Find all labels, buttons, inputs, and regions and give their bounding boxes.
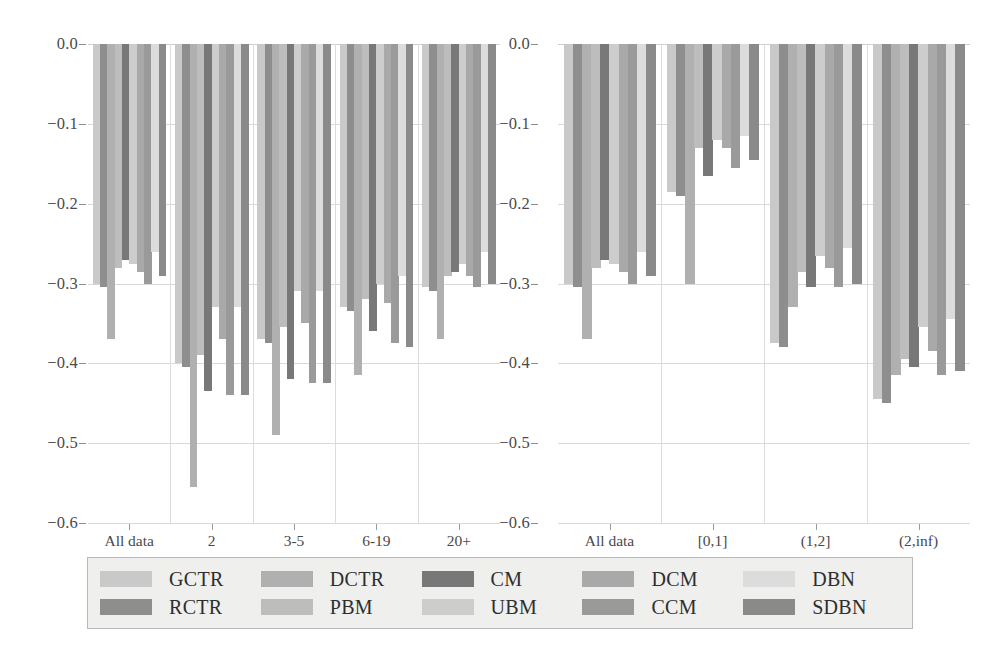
bar-cm-1 bbox=[703, 44, 713, 176]
bar-group bbox=[873, 44, 965, 523]
y-tick-label: −0.2 bbox=[47, 194, 78, 214]
bar-rctr-1 bbox=[676, 44, 686, 196]
y-tick-mark bbox=[79, 204, 86, 205]
bar-group bbox=[564, 44, 656, 523]
y-axis-left: 0.0−0.1−0.2−0.3−0.4−0.5−0.6 bbox=[0, 44, 78, 523]
bar-cm-3 bbox=[909, 44, 919, 367]
bar-rctr-0 bbox=[573, 44, 583, 287]
y-tick-mark bbox=[531, 124, 538, 125]
x-tick-label: (2,inf) bbox=[899, 532, 938, 550]
bar-dctr-2 bbox=[788, 44, 798, 307]
legend-label: RCTR bbox=[169, 596, 222, 619]
bar-ccm-3 bbox=[937, 44, 947, 375]
bar-group bbox=[257, 44, 330, 523]
y-tick-label: −0.4 bbox=[499, 353, 530, 373]
bar-group bbox=[340, 44, 413, 523]
gridline-x bbox=[867, 44, 868, 523]
x-tick-label: All data bbox=[585, 532, 635, 550]
legend-label: UBM bbox=[491, 596, 537, 619]
legend-swatch-icon bbox=[582, 599, 634, 615]
figure-root: 0.0−0.1−0.2−0.3−0.4−0.5−0.6 All data23-5… bbox=[0, 0, 999, 668]
bar-cm-0 bbox=[600, 44, 610, 260]
y-tick-label: −0.2 bbox=[499, 194, 530, 214]
legend-swatch-icon bbox=[261, 599, 313, 615]
bar-dbn-0 bbox=[637, 44, 647, 252]
x-tick-mark bbox=[610, 524, 611, 530]
legend-item-ubm[interactable]: UBM bbox=[422, 593, 583, 621]
legend-label: GCTR bbox=[169, 568, 224, 591]
bar-ccm-2 bbox=[834, 44, 844, 287]
y-tick-label: 0.0 bbox=[57, 34, 78, 54]
bar-dctr-3 bbox=[891, 44, 901, 375]
legend-item-gctr[interactable]: GCTR bbox=[100, 565, 261, 593]
bar-group bbox=[93, 44, 166, 523]
bars-container-right bbox=[558, 44, 970, 523]
x-axis-right: All data[0,1](1,2](2,inf) bbox=[558, 524, 970, 550]
bar-group bbox=[667, 44, 759, 523]
legend-label: DCTR bbox=[330, 568, 385, 591]
bar-dbn-1 bbox=[740, 44, 750, 136]
legend-item-pbm[interactable]: PBM bbox=[261, 593, 422, 621]
bar-gctr-3 bbox=[873, 44, 883, 399]
legend-swatch-icon bbox=[743, 571, 795, 587]
bar-pbm-3 bbox=[900, 44, 910, 359]
legend-item-ccm[interactable]: CCM bbox=[582, 593, 743, 621]
x-tick-mark bbox=[713, 524, 714, 530]
bar-dcm-2 bbox=[825, 44, 835, 268]
y-tick-label: −0.5 bbox=[499, 433, 530, 453]
legend-swatch-icon bbox=[582, 571, 634, 587]
legend-label: DBN bbox=[812, 568, 855, 591]
legend-item-sdbn[interactable]: SDBN bbox=[743, 593, 904, 621]
bar-ccm-0 bbox=[628, 44, 638, 284]
y-tick-mark bbox=[531, 44, 538, 45]
x-axis-left: All data23-56-1920+ bbox=[88, 524, 500, 550]
legend-swatch-icon bbox=[422, 571, 474, 587]
legend: GCTRRCTRDCTRPBMCMUBMDCMCCMDBNSDBN bbox=[87, 557, 913, 629]
legend-label: CM bbox=[491, 568, 523, 591]
y-tick-mark bbox=[531, 523, 538, 524]
bar-dcm-0 bbox=[619, 44, 629, 272]
x-tick-label: 3-5 bbox=[284, 532, 305, 550]
y-tick-mark bbox=[531, 284, 538, 285]
legend-item-dctr[interactable]: DCTR bbox=[261, 565, 422, 593]
bar-sdbn-2 bbox=[323, 44, 331, 383]
bar-dbn-3 bbox=[946, 44, 956, 319]
x-tick-mark bbox=[129, 524, 130, 530]
legend-item-dcm[interactable]: DCM bbox=[582, 565, 743, 593]
bar-pbm-1 bbox=[694, 44, 704, 148]
y-tick-label: 0.0 bbox=[509, 34, 530, 54]
legend-label: CCM bbox=[651, 596, 696, 619]
y-tick-mark bbox=[79, 443, 86, 444]
bar-dctr-0 bbox=[582, 44, 592, 339]
legend-items: GCTRRCTRDCTRPBMCMUBMDCMCCMDBNSDBN bbox=[100, 565, 904, 621]
y-tick-label: −0.6 bbox=[47, 513, 78, 533]
x-tick-mark bbox=[459, 524, 460, 530]
chart-panel-right: 0.0−0.1−0.2−0.3−0.4−0.5−0.6 All data[0,1… bbox=[500, 0, 999, 556]
bar-sdbn-2 bbox=[852, 44, 862, 284]
bar-gctr-1 bbox=[667, 44, 677, 192]
bar-pbm-0 bbox=[591, 44, 601, 268]
y-tick-label: −0.1 bbox=[499, 114, 530, 134]
gridline-x bbox=[661, 44, 662, 523]
legend-label: SDBN bbox=[812, 596, 867, 619]
y-tick-mark bbox=[79, 124, 86, 125]
bar-pbm-2 bbox=[797, 44, 807, 272]
legend-label: PBM bbox=[330, 596, 373, 619]
legend-item-dbn[interactable]: DBN bbox=[743, 565, 904, 593]
legend-item-cm[interactable]: CM bbox=[422, 565, 583, 593]
bar-dbn-2 bbox=[843, 44, 853, 248]
y-tick-mark bbox=[79, 523, 86, 524]
bar-sdbn-3 bbox=[955, 44, 965, 371]
x-tick-mark bbox=[212, 524, 213, 530]
y-axis-right: 0.0−0.1−0.2−0.3−0.4−0.5−0.6 bbox=[460, 44, 530, 523]
legend-swatch-icon bbox=[743, 599, 795, 615]
legend-item-rctr[interactable]: RCTR bbox=[100, 593, 261, 621]
gridline-x bbox=[170, 44, 171, 523]
bar-group bbox=[175, 44, 248, 523]
y-tick-label: −0.1 bbox=[47, 114, 78, 134]
y-tick-label: −0.4 bbox=[47, 353, 78, 373]
gridline-x bbox=[764, 44, 765, 523]
legend-label: DCM bbox=[651, 568, 697, 591]
gridline-x bbox=[418, 44, 419, 523]
x-tick-mark bbox=[919, 524, 920, 530]
